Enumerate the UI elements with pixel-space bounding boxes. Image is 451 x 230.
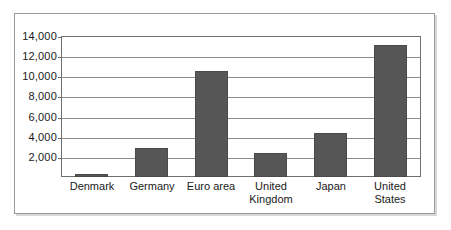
y-axis: 2,0004,0006,0008,00010,00012,00014,000	[15, 36, 57, 177]
y-tick-label: 12,000	[22, 51, 57, 62]
x-axis: DenmarkGermanyEuro areaUnitedKingdomJapa…	[62, 180, 420, 214]
x-tick-label-line: United	[374, 180, 406, 192]
bar-chart: 2,0004,0006,0008,00010,00012,00014,000 D…	[15, 14, 436, 215]
x-tick-label-line: States	[360, 193, 420, 206]
x-tick-label: Denmark	[62, 180, 122, 193]
bar	[314, 133, 347, 177]
bar	[195, 71, 228, 177]
bar	[75, 174, 108, 177]
x-tick-label: UnitedStates	[360, 180, 420, 206]
figure-frame: 2,0004,0006,0008,00010,00012,00014,000 D…	[14, 13, 435, 214]
x-tick-label-line: Kingdom	[241, 193, 301, 206]
x-tick-label: Euro area	[181, 180, 241, 193]
bar	[374, 45, 407, 177]
x-tick-label-line: Germany	[129, 180, 174, 192]
x-tick-label-line: Japan	[316, 180, 346, 192]
y-tick-label: 6,000	[28, 112, 57, 123]
bar	[135, 148, 168, 177]
bars-layer	[62, 37, 420, 177]
y-tick-label: 2,000	[28, 152, 57, 163]
y-tick-label: 4,000	[28, 132, 57, 143]
y-tick-label: 8,000	[28, 91, 57, 102]
y-tick-label: 14,000	[22, 31, 57, 42]
bar	[254, 153, 287, 177]
x-tick-label: UnitedKingdom	[241, 180, 301, 206]
x-tick-label: Germany	[122, 180, 182, 193]
y-tick-label: 10,000	[22, 71, 57, 82]
x-tick-label: Japan	[301, 180, 361, 193]
x-tick-label-line: United	[255, 180, 287, 192]
x-tick-label-line: Euro area	[187, 180, 235, 192]
x-tick-label-line: Denmark	[70, 180, 115, 192]
